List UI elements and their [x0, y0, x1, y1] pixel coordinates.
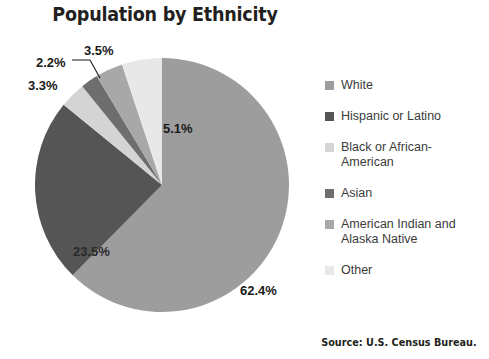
callout-label-american-indian-and-alaska-native: 3.5%: [84, 43, 114, 58]
legend-item-label: Hispanic or Latino: [341, 109, 441, 124]
legend-swatch-icon: [325, 143, 334, 152]
legend-item-label: Asian: [341, 186, 372, 201]
pie-svg: [35, 58, 289, 312]
legend-item-american-indian-and-alaska-native[interactable]: American Indian and Alaska Native: [325, 217, 485, 247]
callout-label-asian: 2.2%: [36, 55, 66, 70]
slice-label-white: 62.4%: [240, 283, 277, 298]
legend-swatch-icon: [325, 81, 334, 90]
legend-item-other[interactable]: Other: [325, 263, 485, 278]
legend: WhiteHispanic or LatinoBlack or African-…: [325, 78, 485, 294]
legend-item-label: American Indian and Alaska Native: [341, 217, 481, 247]
legend-swatch-icon: [325, 189, 334, 198]
legend-item-black-or-african-american[interactable]: Black or African-American: [325, 140, 485, 170]
chart-page: Population by Ethnicity 62.4% 23.5% 5.1%…: [0, 0, 489, 359]
legend-item-label: Black or African-American: [341, 140, 481, 170]
slice-label-hispanic-or-latino: 23.5%: [73, 244, 110, 259]
legend-item-hispanic-or-latino[interactable]: Hispanic or Latino: [325, 109, 485, 124]
page-title: Population by Ethnicity: [20, 2, 310, 26]
legend-swatch-icon: [325, 220, 334, 229]
source-note: Source: U.S. Census Bureau.: [322, 336, 477, 349]
legend-item-label: White: [341, 78, 373, 93]
slice-label-other: 5.1%: [163, 121, 193, 136]
legend-swatch-icon: [325, 266, 334, 275]
legend-swatch-icon: [325, 112, 334, 121]
callout-label-black-or-african-american: 3.3%: [28, 78, 58, 93]
pie-chart: 62.4% 23.5% 5.1%: [35, 58, 289, 312]
legend-item-white[interactable]: White: [325, 78, 485, 93]
legend-item-label: Other: [341, 263, 372, 278]
legend-item-asian[interactable]: Asian: [325, 186, 485, 201]
